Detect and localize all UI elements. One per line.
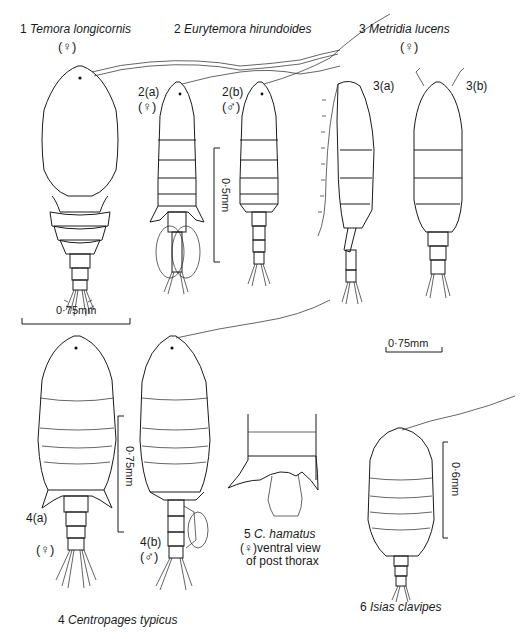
c-hamatus-drawing xyxy=(228,414,318,516)
isias-clavipes-drawing xyxy=(368,396,515,602)
species-1-number: 1 xyxy=(20,22,27,36)
species-5-caption-line2: of post thorax xyxy=(246,555,319,568)
species-3-sex: (♀) xyxy=(400,40,418,54)
species-4-number: 4 xyxy=(58,613,65,627)
species-1-sex: (♀) xyxy=(58,40,76,54)
species-3-number: 3 xyxy=(359,22,366,36)
view-3b-label: 3(b) xyxy=(466,80,487,93)
eurytemora-2a-drawing xyxy=(150,66,340,294)
view-2b-sex: (♂) xyxy=(222,100,240,114)
scale-bar-3-label: 0·75mm xyxy=(388,337,428,350)
species-3-name: Metridia lucens xyxy=(369,22,450,36)
view-4b-sex: (♂) xyxy=(140,550,158,564)
species-4-name: Centropages typicus xyxy=(68,613,177,627)
species-5-name: C. hamatus xyxy=(254,527,315,541)
species-2-number: 2 xyxy=(174,22,181,36)
view-2a-label: 2(a) xyxy=(138,86,159,99)
species-6-title: 6 Isias clavipes xyxy=(360,601,441,614)
metridia-3a-drawing xyxy=(318,81,374,304)
scale-bar-6-label: 0·6mm xyxy=(450,462,462,496)
scale-bar-1-label: 0·75mm xyxy=(56,304,96,317)
metridia-3b-drawing xyxy=(414,68,464,298)
view-2b-label: 2(b) xyxy=(222,86,243,99)
view-2a-sex: (♀) xyxy=(138,100,156,114)
view-4a-sex: (♀) xyxy=(36,543,54,557)
species-1-title: 1 Temora longicornis xyxy=(20,23,131,36)
view-3a-label: 3(a) xyxy=(373,80,394,93)
species-6-name: Isias clavipes xyxy=(370,600,441,614)
species-4-title: 4 Centropages typicus xyxy=(58,614,177,627)
species-2-name: Eurytemora hirundoides xyxy=(184,22,311,36)
species-5-caption-line1: ventral view xyxy=(257,541,320,555)
species-6-number: 6 xyxy=(360,600,367,614)
view-4a-label: 4(a) xyxy=(26,512,47,525)
species-5-number: 5 xyxy=(244,527,251,541)
view-4b-label: 4(b) xyxy=(140,536,161,549)
species-5-title: 5 C. hamatus xyxy=(244,528,315,541)
scale-bar-4-label: 0·75mm xyxy=(124,446,136,486)
species-2-title: 2 Eurytemora hirundoides xyxy=(174,23,311,36)
scale-bar-2-label: 0·5mm xyxy=(220,178,232,212)
species-3-title: 3 Metridia lucens xyxy=(359,23,450,36)
species-5-sex: (♀) xyxy=(240,541,257,555)
species-1-name: Temora longicornis xyxy=(30,22,131,36)
